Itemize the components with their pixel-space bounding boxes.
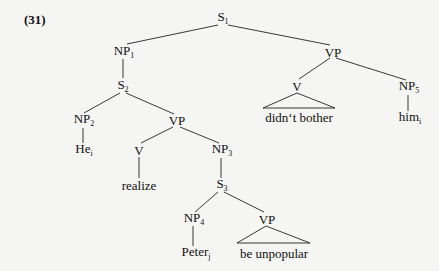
node-label: NP <box>114 43 131 58</box>
node-subscript: 1 <box>225 17 229 26</box>
node-np1: NP1 <box>114 44 135 60</box>
node-v-main: V <box>292 80 301 93</box>
node-label: V <box>134 143 143 158</box>
node-label: VP <box>325 45 342 60</box>
leaf-him: himi <box>399 110 421 126</box>
node-label: VP <box>259 212 276 227</box>
node-subscript: 1 <box>130 51 134 60</box>
syntax-tree-diagram: (31) S1 NP1 S2 NP2 VP VP V NP5 didn‘t bo… <box>0 0 439 271</box>
node-np5: NP5 <box>399 79 420 95</box>
node-label: NP <box>74 111 91 126</box>
leaf-be-unpopular: be unpopular <box>240 247 308 260</box>
node-label: VP <box>169 113 186 128</box>
node-label: NP <box>212 141 229 156</box>
example-number: (31) <box>24 12 46 28</box>
node-np3: NP3 <box>212 142 233 158</box>
node-label: realize <box>122 178 157 193</box>
node-label: NP <box>399 78 416 93</box>
node-subscript: 2 <box>90 119 94 128</box>
node-s2: S2 <box>117 78 128 94</box>
node-s3: S3 <box>216 177 227 193</box>
node-subscript: 3 <box>228 149 232 158</box>
node-label: be unpopular <box>240 246 308 261</box>
node-subscript: i <box>90 149 92 158</box>
node-vp-main: VP <box>325 46 342 59</box>
node-label: NP <box>184 210 201 225</box>
node-np4: NP4 <box>184 211 205 227</box>
node-label: didn‘t bother <box>265 110 333 125</box>
node-vp-low: VP <box>259 213 276 226</box>
node-subscript: 3 <box>224 184 228 193</box>
node-s1: S1 <box>217 10 228 26</box>
leaf-realize: realize <box>122 179 157 192</box>
node-np2: NP2 <box>74 112 95 128</box>
node-label: He <box>75 141 90 156</box>
leaf-didnt-bother: didn‘t bother <box>265 111 333 124</box>
node-subscript: 5 <box>415 86 419 95</box>
leaf-peter: Peterj <box>182 245 211 261</box>
node-label: V <box>292 79 301 94</box>
node-subscript: j <box>208 252 210 261</box>
leaf-he: Hei <box>75 142 92 158</box>
node-v-inner: V <box>134 144 143 157</box>
node-subscript: 2 <box>125 85 129 94</box>
tree-edges <box>0 0 439 271</box>
node-subscript: i <box>419 117 421 126</box>
node-label: Peter <box>182 244 209 259</box>
node-vp-inner: VP <box>169 114 186 127</box>
node-subscript: 4 <box>200 218 204 227</box>
node-label: him <box>399 109 419 124</box>
